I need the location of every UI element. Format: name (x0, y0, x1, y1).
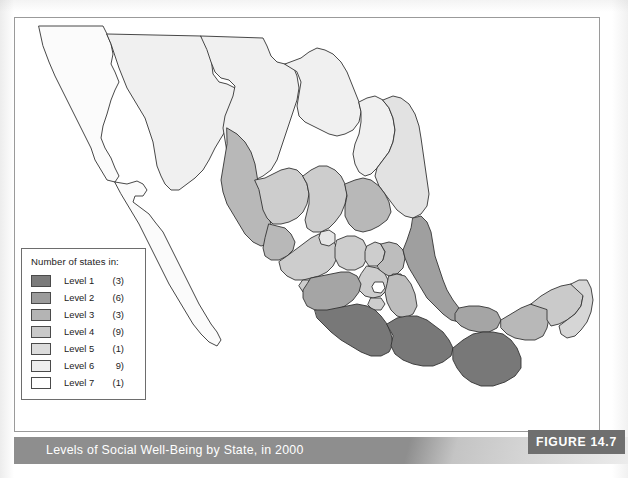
legend-count-level-3: (3) (104, 309, 124, 320)
legend-title: Number of states in: (31, 256, 137, 267)
state-baja-california-norte (39, 26, 119, 182)
legend-swatch-level-3 (31, 309, 51, 321)
legend-label-level-6: Level 6 (64, 360, 104, 371)
legend-label-level-2: Level 2 (64, 292, 104, 303)
state-chiapas (453, 332, 521, 386)
state-guerrero (315, 304, 393, 356)
legend-row-level-3: Level 3 (3) (31, 306, 137, 323)
legend-swatch-level-5 (31, 343, 51, 355)
legend-row-level-6: Level 6 9) (31, 357, 137, 374)
legend-count-level-4: (9) (104, 326, 124, 337)
legend-label-level-1: Level 1 (64, 275, 104, 286)
legend-row-level-4: Level 4 (9) (31, 323, 137, 340)
legend-row-level-5: Level 5 (1) (31, 340, 137, 357)
map-legend: Number of states in: Level 1 (3) Level 2… (21, 248, 146, 400)
figure-number-text: FIGURE 14.7 (528, 430, 625, 454)
state-oaxaca (387, 316, 453, 366)
legend-swatch-level-1 (31, 275, 51, 287)
state-guanajuato (335, 236, 367, 270)
legend-count-level-2: (6) (104, 292, 124, 303)
legend-count-level-6: 9) (104, 360, 124, 371)
legend-swatch-level-7 (31, 377, 51, 389)
legend-label-level-3: Level 3 (64, 309, 104, 320)
state-tabasco (455, 306, 501, 332)
map-frame: Number of states in: Level 1 (3) Level 2… (14, 17, 600, 432)
state-aguascalientes (319, 230, 335, 246)
legend-count-level-1: (3) (104, 275, 124, 286)
legend-row-level-7: Level 7 (1) (31, 374, 137, 391)
legend-swatch-level-6 (31, 360, 51, 372)
figure-caption-text: Levels of Social Well-Being by State, in… (46, 437, 304, 464)
figure-page: Number of states in: Level 1 (3) Level 2… (0, 0, 628, 478)
legend-row-level-1: Level 1 (3) (31, 272, 137, 289)
legend-swatch-level-2 (31, 292, 51, 304)
legend-label-level-5: Level 5 (64, 343, 104, 354)
legend-label-level-4: Level 4 (64, 326, 104, 337)
legend-count-level-7: (1) (104, 377, 124, 388)
state-puebla (385, 274, 417, 318)
legend-count-level-5: (1) (104, 343, 124, 354)
legend-row-level-2: Level 2 (6) (31, 289, 137, 306)
state-zacatecas (303, 166, 347, 232)
legend-label-level-7: Level 7 (64, 377, 104, 388)
legend-swatch-level-4 (31, 326, 51, 338)
